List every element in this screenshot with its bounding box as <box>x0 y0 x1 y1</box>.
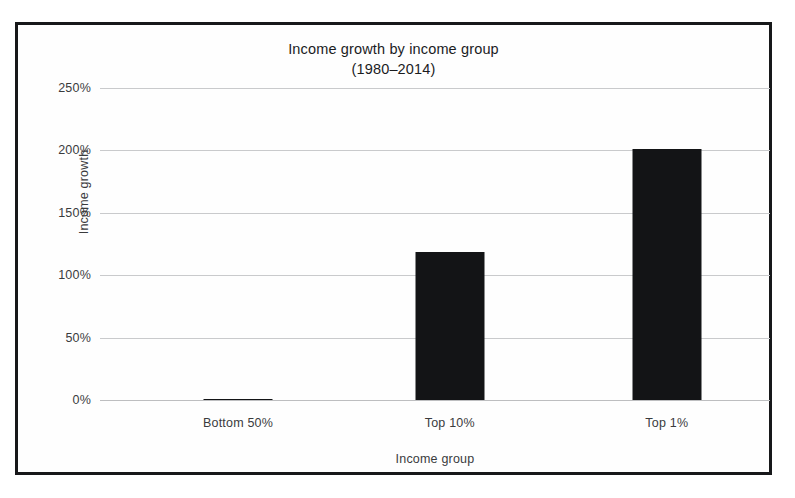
chart-frame: Income growth by income group (1980–2014… <box>15 22 772 475</box>
plot-area: 250% 200% 150% 100% 50% 0% Bottom 50% To… <box>100 88 770 400</box>
gridline-250: 250% <box>100 88 770 89</box>
bar-bottom-50[interactable] <box>204 399 273 400</box>
chart-title: Income growth by income group (1980–2014… <box>18 39 769 79</box>
bar-top-10[interactable] <box>415 252 484 401</box>
ytick-label-0: 0% <box>73 393 91 407</box>
ytick-label-50: 50% <box>65 331 91 345</box>
xtick-label-top-1: Top 1% <box>645 416 688 430</box>
x-axis-title: Income group <box>100 452 770 466</box>
bar-top-1[interactable] <box>632 149 701 400</box>
xtick-label-bottom-50: Bottom 50% <box>203 416 273 430</box>
ytick-label-200: 200% <box>58 143 91 157</box>
ytick-label-100: 100% <box>58 268 91 282</box>
ytick-label-250: 250% <box>58 81 91 95</box>
ytick-label-150: 150% <box>58 206 91 220</box>
gridline-0: 0% <box>100 400 770 401</box>
xtick-label-top-10: Top 10% <box>425 416 475 430</box>
chart-title-main: Income growth by income group <box>288 41 499 57</box>
chart-title-subtitle: (1980–2014) <box>18 59 769 79</box>
